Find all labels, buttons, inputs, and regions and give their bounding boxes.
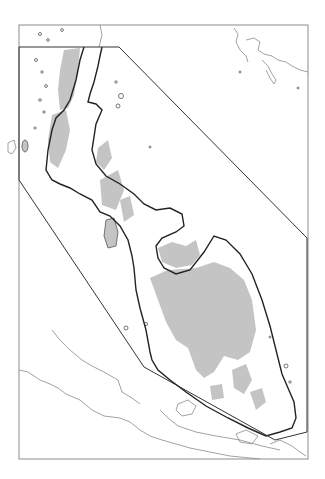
shaded-regions — [48, 48, 266, 410]
map-canvas — [0, 0, 325, 479]
peninsula-coastline — [46, 47, 296, 436]
map-figure — [0, 0, 325, 479]
